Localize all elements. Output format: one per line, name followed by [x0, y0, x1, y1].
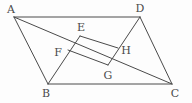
vertex-label-f: F [54, 47, 62, 58]
geometry-canvas [0, 0, 192, 103]
vertex-label-h: H [121, 45, 131, 56]
segment-AC [14, 17, 172, 84]
segment-BE [48, 36, 80, 84]
vertex-label-g: G [104, 70, 113, 81]
segment-FG [68, 50, 108, 65]
vertex-label-e: E [77, 22, 85, 33]
vertex-label-d: D [136, 3, 145, 14]
segment-DG [108, 17, 140, 65]
segment-DC [140, 17, 172, 84]
vertex-label-b: B [42, 88, 50, 99]
geometry-figure: ADEFHGBC [0, 0, 192, 103]
vertex-label-a: A [7, 4, 15, 15]
segment-EH [80, 36, 118, 48]
vertex-label-c: C [171, 88, 179, 99]
segment-AB [14, 17, 48, 84]
